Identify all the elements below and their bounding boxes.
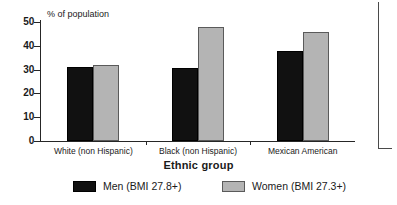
y-axis-tick-label: 0 [14,136,34,146]
category-label: White (non Hispanic) [54,146,133,156]
bar-women [303,32,329,141]
bar-men [277,51,303,141]
y-axis-tick [34,70,41,71]
y-axis-tick-label: 50 [14,17,34,27]
y-axis-tick-labels: 01020304050 [0,0,34,145]
y-axis-tick-label: 20 [14,88,34,98]
chart-legend: Men (BMI 27.8+) Women (BMI 27.3+) [0,180,397,196]
bar-women [198,27,224,141]
bar-women [93,65,119,141]
legend-swatch-women-icon [222,181,245,192]
legend-item-men: Men (BMI 27.8+) [73,180,182,192]
page-frame-rule [378,2,379,148]
y-axis-tick [34,141,41,142]
y-axis-tick-label: 40 [14,41,34,51]
x-axis-tick [146,141,147,145]
legend-label-men: Men (BMI 27.8+) [103,180,182,192]
bmi-by-ethnic-group-bar-chart: % of population 01020304050 White (non H… [0,0,397,205]
y-axis-tick [34,46,41,47]
y-axis-tick [34,117,41,118]
category-label: Mexican American [268,146,337,156]
y-axis-line [40,20,41,142]
bar-men [172,68,198,141]
x-axis-line [40,141,355,142]
y-axis-tick [34,22,41,23]
x-axis-tick [250,141,251,145]
bar-men [67,67,93,141]
page-frame-rule-bottom [378,148,392,149]
y-axis-tick-label: 30 [14,65,34,75]
legend-item-women: Women (BMI 27.3+) [222,180,346,192]
x-axis-title: Ethnic group [0,159,397,171]
category-label: Black (non Hispanic) [159,146,237,156]
legend-swatch-men-icon [73,181,96,192]
y-axis-title: % of population [47,9,109,19]
y-axis-tick [34,93,41,94]
legend-label-women: Women (BMI 27.3+) [252,180,346,192]
y-axis-tick-label: 10 [14,112,34,122]
